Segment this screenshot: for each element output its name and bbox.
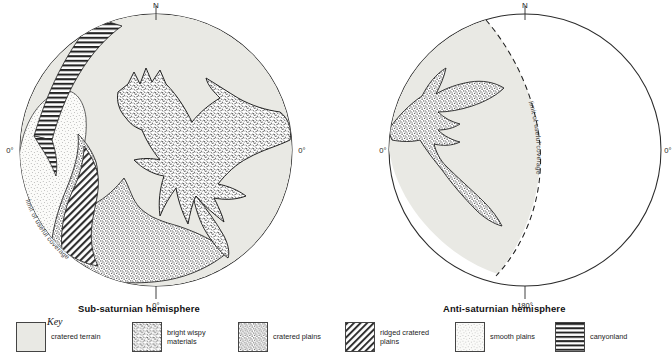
swatch-cratered-terrain bbox=[16, 322, 46, 352]
title-sub-saturnian-hemisphere: Sub-saturnian hemisphere bbox=[78, 303, 200, 314]
hemisphere-map-figure: limit of useful coverage N 0° 0° 0° Sub-… bbox=[0, 0, 672, 355]
map-anti-saturnian: limit of useful coverage N 180° 0° 0° bbox=[378, 0, 672, 310]
swatch-canyonland bbox=[555, 322, 585, 352]
key-label-canyonland: canyonland bbox=[590, 332, 627, 341]
label-east-left: 0° bbox=[298, 146, 305, 155]
swatch-bright-wispy-materials bbox=[132, 322, 162, 352]
key-item-ridged-cratered-plains: ridged cratered plains bbox=[345, 322, 442, 352]
key-label-smooth-plains: smooth plains bbox=[490, 332, 535, 341]
key-item-smooth-plains: smooth plains bbox=[455, 322, 535, 352]
label-east-right: 0° bbox=[664, 146, 671, 155]
key-label-ridged-cratered-plains: ridged cratered plains bbox=[380, 328, 442, 347]
key-item-cratered-terrain: cratered terrain bbox=[16, 322, 100, 352]
label-north-left: N bbox=[153, 1, 159, 10]
key-label-cratered-terrain: cratered terrain bbox=[51, 332, 100, 341]
map-sub-saturnian: limit of useful coverage N 0° 0° 0° bbox=[0, 0, 340, 310]
key-item-bright-wispy-materials: bright wispy materials bbox=[132, 322, 229, 352]
swatch-ridged-cratered-plains bbox=[345, 322, 375, 352]
swatch-smooth-plains bbox=[455, 322, 485, 352]
label-west-left: 0° bbox=[6, 146, 13, 155]
label-north-right: N bbox=[522, 1, 528, 10]
key-label-cratered-plains: cratered plains bbox=[273, 332, 321, 341]
key-item-canyonland: canyonland bbox=[555, 322, 627, 352]
key-item-cratered-plains: cratered plains bbox=[238, 322, 321, 352]
map-key: Key cratered terrain bright wispy materi… bbox=[0, 316, 672, 355]
label-west-right: 0° bbox=[379, 146, 386, 155]
title-anti-saturnian-hemisphere: Anti-saturnian hemisphere bbox=[443, 303, 566, 314]
key-label-bright-wispy-materials: bright wispy materials bbox=[167, 328, 229, 347]
swatch-cratered-plains bbox=[238, 322, 268, 352]
